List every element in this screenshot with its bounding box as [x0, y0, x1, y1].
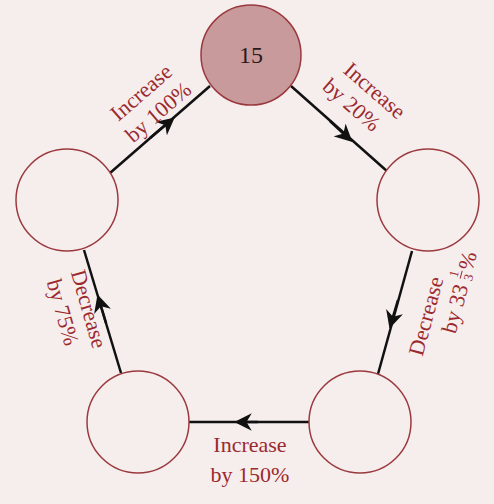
label-increase-150: Increase by 150%	[211, 432, 290, 487]
label-decrease-33-1-3: Decrease by 33 1 3 %	[403, 242, 482, 365]
node-value: 15	[239, 42, 263, 68]
label-increase-100: Increase by 100%	[103, 57, 196, 147]
edge-right-to-bottom-right	[378, 251, 412, 374]
node-bottom-right	[309, 371, 411, 473]
svg-text:%: %	[453, 249, 482, 273]
node-right	[377, 149, 479, 251]
label-decrease-75: Decrease by 75%	[41, 267, 112, 359]
node-left	[16, 149, 118, 251]
svg-text:by 150%: by 150%	[211, 462, 290, 487]
node-top: 15	[201, 5, 301, 105]
svg-text:1: 1	[446, 269, 462, 279]
cycle-diagram: 15 Increase by 100% Increase by 20% Decr…	[0, 0, 494, 504]
label-increase-20: Increase by 20%	[318, 53, 411, 143]
svg-text:Increase: Increase	[213, 432, 286, 457]
svg-text:3: 3	[460, 272, 476, 282]
node-bottom-left	[87, 371, 189, 473]
arrow-icon	[330, 121, 346, 136]
